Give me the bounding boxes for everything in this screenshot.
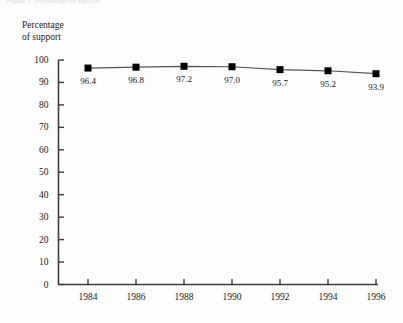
- figure-container: Figure 1. Percentage of support Percenta…: [0, 0, 403, 323]
- x-axis-tick-label: 1988: [161, 292, 207, 302]
- y-axis-tick-label: 20: [23, 235, 49, 245]
- data-point-value-label: 97.2: [164, 74, 204, 84]
- y-axis-tick-label: 10: [23, 257, 49, 267]
- chart-plot-area: [0, 0, 403, 323]
- data-point-value-label: 96.8: [116, 75, 156, 85]
- data-point-marker: [325, 67, 332, 74]
- x-axis-tick-label: 1992: [257, 292, 303, 302]
- data-point-value-label: 93.9: [356, 82, 396, 92]
- data-point-value-label: 95.2: [308, 79, 348, 89]
- x-axis-ticks: [88, 279, 376, 285]
- y-axis-tick-label: 60: [23, 145, 49, 155]
- data-point-marker: [85, 65, 92, 72]
- y-axis-tick-label: 80: [23, 100, 49, 110]
- data-point-marker: [229, 63, 236, 70]
- y-axis-tick-label: 0: [23, 280, 49, 290]
- x-axis-tick-label: 1994: [305, 292, 351, 302]
- y-axis-tick-label: 70: [23, 122, 49, 132]
- data-point-value-label: 95.7: [260, 78, 300, 88]
- x-axis-tick-label: 1984: [65, 292, 111, 302]
- y-axis-tick-label: 30: [23, 212, 49, 222]
- data-point-marker: [181, 63, 188, 70]
- y-axis-tick-label: 100: [23, 55, 49, 65]
- data-point-value-label: 97.0: [212, 75, 252, 85]
- data-point-marker: [277, 66, 284, 73]
- x-axis-tick-label: 1990: [209, 292, 255, 302]
- y-axis-tick-label: 50: [23, 167, 49, 177]
- y-axis-tick-label: 40: [23, 190, 49, 200]
- data-point-marker: [133, 64, 140, 71]
- y-axis-tick-label: 90: [23, 77, 49, 87]
- data-point-value-label: 96.4: [68, 76, 108, 86]
- y-axis-ticks: [59, 60, 65, 285]
- x-axis-tick-label: 1996: [353, 292, 399, 302]
- data-point-marker: [373, 70, 380, 77]
- x-axis-tick-label: 1986: [113, 292, 159, 302]
